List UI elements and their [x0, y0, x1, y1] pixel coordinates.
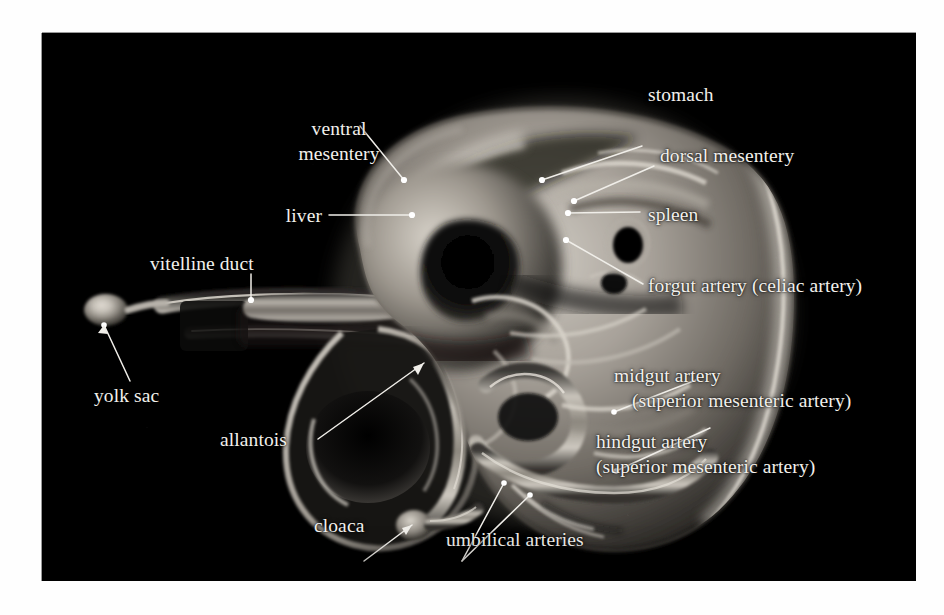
label-umbilical-arteries: umbilical arteries: [446, 527, 584, 552]
scan-grain-overlay: [42, 33, 916, 581]
label-hindgut-artery-line1: hindgut artery: [596, 429, 815, 454]
label-ventral-mesentery: ventral mesentery: [274, 116, 404, 166]
label-hindgut-artery: hindgut artery (superior mesenteric arte…: [596, 429, 815, 479]
label-stomach: stomach: [648, 82, 714, 107]
label-midgut-artery-line1: midgut artery: [614, 363, 851, 388]
label-ventral-mesentery-line2: mesentery: [274, 141, 404, 166]
label-midgut-artery: midgut artery (superior mesenteric arter…: [614, 363, 851, 413]
label-allantois: allantois: [220, 427, 287, 452]
figure-page: ventral mesentery stomach dorsal mesente…: [0, 0, 944, 615]
label-forgut-artery: forgut artery (celiac artery): [648, 273, 862, 298]
label-hindgut-artery-line2: (superior mesenteric artery): [596, 454, 815, 479]
label-ventral-mesentery-line1: ventral: [274, 116, 404, 141]
label-yolk-sac: yolk sac: [94, 383, 159, 408]
label-spleen: spleen: [648, 202, 698, 227]
label-dorsal-mesentery: dorsal mesentery: [660, 143, 794, 168]
label-cloaca: cloaca: [314, 513, 364, 538]
figure-plate: ventral mesentery stomach dorsal mesente…: [42, 33, 916, 581]
label-liver: liver: [212, 203, 322, 228]
label-vitelline-duct: vitelline duct: [150, 251, 254, 276]
label-midgut-artery-line2: (superior mesenteric artery): [614, 388, 851, 413]
